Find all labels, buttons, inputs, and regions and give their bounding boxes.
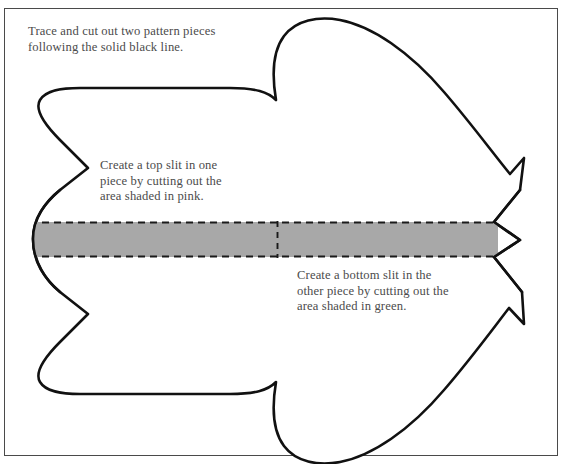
slit-band-fill	[30, 222, 498, 257]
instruction-top-slit: Create a top slit in one piece by cuttin…	[100, 158, 280, 205]
pattern-illustration	[0, 0, 565, 464]
instruction-bottom-slit: Create a bottom slit in the other piece …	[297, 268, 492, 315]
pattern-worksheet: Trace and cut out two pattern pieces fol…	[0, 0, 565, 464]
instruction-trace-and-cut: Trace and cut out two pattern pieces fol…	[28, 24, 268, 55]
